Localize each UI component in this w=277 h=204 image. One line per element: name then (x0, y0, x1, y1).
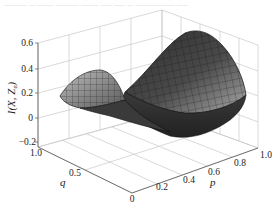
svg-text:I(X, Ze): I(X, Ze) (5, 81, 19, 115)
z-tick-label: 0.4 (21, 64, 33, 74)
p-tick-label: 1.0 (260, 150, 272, 160)
p-tick-label: 0.8 (234, 158, 246, 168)
z-ticks: 0.6 0.4 0.2 0 −0.2 (19, 38, 38, 147)
bleed-through-text: ──── ─ ─── ──── ─── ── ── ─ ─────── ── (3, 1, 189, 10)
q-tick-label: 1.0 (30, 148, 42, 158)
surface-plot: ──── ─ ─── ──── ─── ── ── ─ ─────── ── (0, 0, 277, 204)
q-tick-label: 0.5 (69, 168, 81, 178)
z-tick-label: 0 (28, 113, 33, 123)
p-tick-label: 0.4 (183, 175, 195, 185)
z-tick-label: 0.6 (21, 38, 33, 48)
p-axis-line (132, 148, 258, 193)
p-axis-label: p (209, 176, 216, 188)
q-axis-line (38, 147, 132, 193)
z-axis-label: I(X, Ze) (5, 81, 19, 115)
q-axis-label: q (60, 176, 66, 188)
z-tick-label: −0.2 (19, 137, 36, 147)
z-tick-label: 0.2 (21, 88, 33, 98)
q-ticks: 1.0 0.5 0 q (30, 148, 135, 204)
p-tick-label: 0.2 (156, 182, 168, 192)
q-tick-label: 0 (130, 194, 135, 204)
surface (60, 31, 246, 137)
